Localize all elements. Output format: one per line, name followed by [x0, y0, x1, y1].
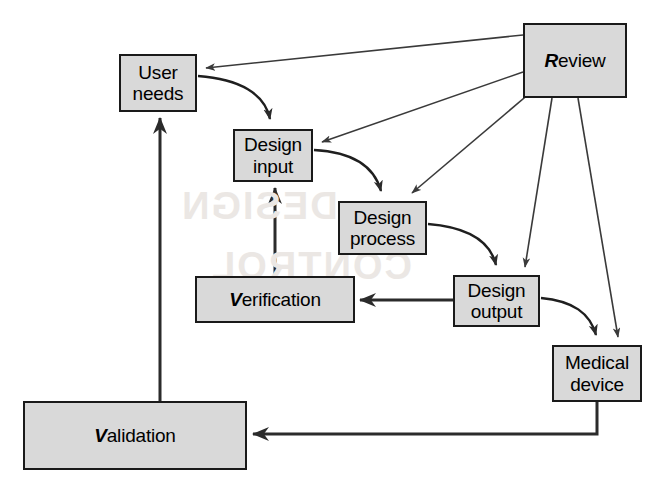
design-control-diagram: DESIGN CONTROL — [0, 0, 655, 486]
node-review-label: Review — [544, 50, 605, 71]
edge-review-to-design-input — [322, 72, 523, 142]
node-design-output[interactable]: Design output — [453, 275, 540, 327]
node-validation[interactable]: Validation — [23, 401, 247, 470]
node-verification-label: Verification — [229, 289, 321, 310]
node-design-process[interactable]: Design process — [338, 201, 427, 255]
node-user-needs[interactable]: User needs — [119, 54, 197, 112]
edge-medical-device-to-validation — [253, 402, 597, 434]
node-design-input[interactable]: Design input — [233, 129, 313, 182]
node-design-input-label: Design input — [244, 134, 302, 177]
node-medical-device-label: Medical device — [565, 352, 629, 395]
edge-review-to-design-process — [412, 93, 530, 193]
node-user-needs-label: User needs — [133, 62, 184, 105]
edge-design-output-to-medical-device — [541, 298, 596, 335]
node-design-process-label: Design process — [350, 207, 415, 250]
edge-review-to-user-needs — [206, 35, 523, 68]
node-validation-label: Validation — [94, 425, 175, 446]
node-verification[interactable]: Verification — [195, 276, 355, 323]
node-medical-device[interactable]: Medical device — [552, 345, 642, 402]
edge-design-input-to-design-process — [314, 150, 381, 191]
edge-user-needs-to-design-input — [198, 76, 270, 119]
node-design-output-label: Design output — [468, 280, 526, 323]
edge-design-process-to-design-output — [428, 224, 496, 265]
edge-review-to-design-output — [525, 98, 552, 267]
node-review[interactable]: Review — [523, 23, 627, 98]
edge-review-to-medical-device — [578, 98, 618, 337]
